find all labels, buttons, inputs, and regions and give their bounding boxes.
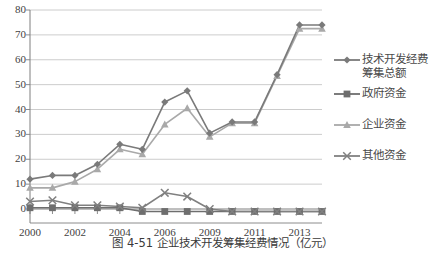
- marker-square: [116, 204, 123, 211]
- legend-item-4[interactable]: 其他资金: [332, 148, 444, 163]
- legend-item-3[interactable]: 企业资金: [332, 117, 444, 132]
- y-axis-tick-label: 30: [0, 128, 26, 139]
- data-point-square: [116, 204, 123, 211]
- data-point-triangle: [161, 120, 169, 127]
- data-point-triangle: [183, 104, 191, 111]
- y-axis-tick-label: 70: [0, 29, 26, 40]
- data-point-square: [184, 208, 191, 215]
- legend-marker-x-icon: [332, 149, 362, 163]
- data-point-diamond: [343, 56, 350, 63]
- data-point-square: [161, 208, 168, 215]
- marker-square: [49, 204, 56, 211]
- y-axis-tick-label: 80: [0, 4, 26, 15]
- marker-diamond: [161, 98, 168, 105]
- data-point-square: [344, 91, 351, 98]
- marker-square: [184, 208, 191, 215]
- series-line-diamond: [30, 25, 322, 179]
- legend-marker-diamond-icon: [332, 53, 362, 67]
- chart-figure: 80706050403020100 2000200220042006200920…: [0, 0, 445, 255]
- legend-label: 其他资金: [362, 148, 406, 162]
- legend-label: 企业资金: [362, 117, 406, 131]
- marker-diamond: [318, 21, 325, 28]
- legend-item-2[interactable]: 政府资金: [332, 86, 444, 101]
- legend-label: 政府资金: [362, 86, 406, 100]
- legend-marker-square-icon: [332, 87, 362, 101]
- data-point-diamond: [161, 98, 168, 105]
- data-point-diamond: [49, 172, 56, 179]
- marker-diamond: [49, 172, 56, 179]
- data-point-diamond: [318, 21, 325, 28]
- y-axis-tick-label: 40: [0, 104, 26, 115]
- legend-marker-triangle-icon: [332, 118, 362, 132]
- chart-canvas: [0, 0, 330, 232]
- marker-square: [161, 208, 168, 215]
- y-axis-tick-label: 20: [0, 153, 26, 164]
- y-axis-tick-label: 10: [0, 178, 26, 189]
- plot-area: 80706050403020100 2000200220042006200920…: [0, 0, 330, 230]
- data-point-diamond: [26, 176, 33, 183]
- marker-triangle: [161, 120, 169, 127]
- data-point-diamond: [71, 172, 78, 179]
- data-point-diamond: [296, 21, 303, 28]
- y-axis-tick-label: 0: [0, 203, 26, 214]
- y-axis-tick-label: 60: [0, 54, 26, 65]
- marker-diamond: [296, 21, 303, 28]
- data-point-square: [27, 204, 34, 211]
- marker-diamond: [26, 176, 33, 183]
- marker-square: [27, 204, 34, 211]
- marker-square: [344, 91, 351, 98]
- data-point-diamond: [184, 87, 191, 94]
- figure-caption: 图 4-51 企业技术开发筹集经费情况（亿元）: [0, 237, 445, 255]
- series-line-triangle: [30, 29, 322, 188]
- marker-diamond: [184, 87, 191, 94]
- chart-legend: 技术开发经费 筹集总额政府资金企业资金其他资金: [332, 52, 444, 165]
- y-axis-tick-label: 50: [0, 79, 26, 90]
- marker-diamond: [71, 172, 78, 179]
- legend-label: 技术开发经费 筹集总额: [362, 52, 428, 80]
- marker-diamond: [343, 56, 350, 63]
- data-point-square: [49, 204, 56, 211]
- legend-item-1[interactable]: 技术开发经费 筹集总额: [332, 52, 444, 80]
- marker-triangle: [183, 104, 191, 111]
